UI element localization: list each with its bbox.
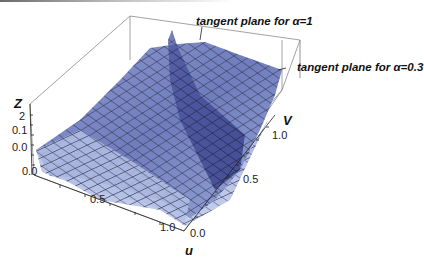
v-tick-label: 0.0 [190, 228, 205, 239]
u-tick-label: 1.0 [160, 222, 175, 233]
v-tick-label: 1.0 [272, 130, 287, 141]
annotation-alpha-0.3: tangent plane for α=0.3 [297, 62, 423, 74]
z-axis-label: Z [14, 97, 22, 110]
z-tick-label: 2 [19, 111, 25, 122]
v-tick-label: 0.5 [243, 174, 258, 185]
z-tick-label: 0.1 [12, 125, 27, 136]
u-tick-label: 0.5 [90, 194, 105, 205]
upper-surface [36, 30, 282, 222]
z-tick-label: 0.0 [12, 142, 27, 153]
annotation-alpha-1: tangent plane for α=1 [196, 16, 313, 28]
u-tick-label: 0.0 [22, 166, 37, 177]
u-axis-label: u [185, 244, 193, 257]
v-axis-label: V [283, 114, 292, 127]
surface-plot [0, 0, 424, 262]
